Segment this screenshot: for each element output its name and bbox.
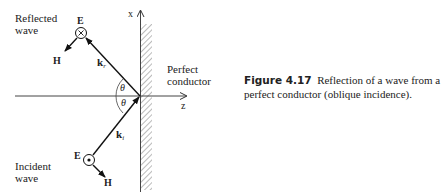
reflection-diagram: Reflected wave E H kr x z θ θ Perfect co… <box>0 0 230 196</box>
e-incident-label: E <box>74 150 81 162</box>
e-reflected-label: E <box>77 15 84 27</box>
k-incident-arrow <box>93 97 139 155</box>
h-incident-label: H <box>104 177 112 189</box>
angle-lower-label: θ <box>121 97 126 109</box>
h-reflected-label: H <box>53 55 61 67</box>
conductor-label-line1: Perfect <box>167 63 198 75</box>
k-reflected-subscript: r <box>103 62 106 70</box>
conductor-hatch <box>141 24 152 190</box>
conductor-label-line2: conductor <box>167 75 211 87</box>
angle-upper-label: θ <box>120 82 125 94</box>
k-incident-subscript: i <box>122 134 124 142</box>
k-reflected-label: kr <box>97 56 106 72</box>
z-axis-label: z <box>181 100 185 112</box>
k-reflected-arrow <box>86 38 140 96</box>
reflected-wave-label-line1: Reflected <box>15 12 57 24</box>
incident-wave-label-line2: wave <box>15 172 38 184</box>
x-axis-label: x <box>128 8 133 20</box>
h-incident-arrow <box>93 165 105 177</box>
reflected-wave-label-line2: wave <box>15 24 38 36</box>
h-reflected-arrow <box>65 38 77 51</box>
figure-caption: Figure 4.17 Reflection of a wave from a … <box>244 73 444 101</box>
figure-number: Figure 4.17 <box>244 74 312 86</box>
k-incident-label: ki <box>116 128 124 144</box>
incident-wave-label-line1: Incident <box>15 160 51 172</box>
